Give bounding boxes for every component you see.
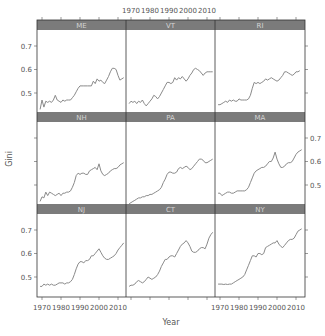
y-tick-label-left: 0.6 — [21, 66, 33, 74]
x-tick-label-bottom: 2010 — [287, 304, 305, 312]
strip-label: MA — [255, 114, 266, 122]
y-axis-label: Gini — [5, 151, 14, 167]
plot-area — [126, 122, 215, 204]
strip-label: PA — [166, 114, 175, 122]
y-tick-label-right: 0.7 — [310, 135, 321, 143]
x-tick-label-top: 2000 — [179, 7, 197, 15]
panel-me: ME — [37, 20, 126, 112]
x-tick-label-bottom: 1970 — [211, 304, 229, 312]
y-tick-label-left: 0.6 — [21, 250, 33, 258]
panel-ny: NY — [215, 204, 305, 297]
x-tick-label-bottom: 2000 — [268, 304, 286, 312]
panel-ma: MA — [215, 112, 305, 204]
plot-area — [37, 122, 126, 204]
x-tick-label-bottom: 2000 — [90, 304, 108, 312]
strip-label: NJ — [78, 206, 85, 214]
x-tick-label-bottom: 1990 — [249, 304, 267, 312]
strip-label: VT — [166, 22, 176, 30]
x-axis-label: Year — [162, 318, 181, 327]
plot-area — [126, 30, 215, 112]
x-tick-label-top: 1980 — [141, 7, 159, 15]
panel-nj: NJ — [37, 204, 126, 297]
panel-ri: RI — [215, 20, 305, 112]
strip-label: ME — [76, 22, 86, 30]
strip-label: NY — [255, 206, 265, 214]
x-tick-label-top: 1990 — [160, 7, 178, 15]
panel-vt: VT — [126, 20, 215, 112]
y-tick-label-right: 0.5 — [310, 182, 321, 190]
x-tick-label-bottom: 1970 — [33, 304, 51, 312]
strip-label: RI — [257, 22, 264, 30]
x-tick-label-bottom: 1980 — [52, 304, 70, 312]
x-tick-label-top: 2010 — [198, 7, 216, 15]
x-tick-label-top: 1970 — [122, 7, 140, 15]
panel-nh: NH — [37, 112, 126, 204]
y-tick-label-left: 0.5 — [21, 90, 32, 98]
panel-pa: PA — [126, 112, 215, 204]
trellis-chart: MEVTRINHPAMANJCTNY 197019801990200020101… — [0, 0, 325, 336]
y-tick-label-left: 0.7 — [21, 43, 32, 51]
strip-label: NH — [76, 114, 87, 122]
x-tick-label-bottom: 1980 — [230, 304, 248, 312]
y-tick-label-left: 0.7 — [21, 227, 32, 235]
x-tick-label-bottom: 2010 — [109, 304, 127, 312]
plot-area — [215, 30, 305, 112]
strip-label: CT — [166, 206, 176, 214]
panel-grid: MEVTRINHPAMANJCTNY — [37, 20, 305, 297]
y-tick-label-right: 0.6 — [310, 158, 322, 166]
y-tick-label-left: 0.5 — [21, 274, 32, 282]
x-tick-label-bottom: 1990 — [71, 304, 89, 312]
plot-area — [37, 30, 126, 112]
panel-ct: CT — [126, 204, 215, 297]
